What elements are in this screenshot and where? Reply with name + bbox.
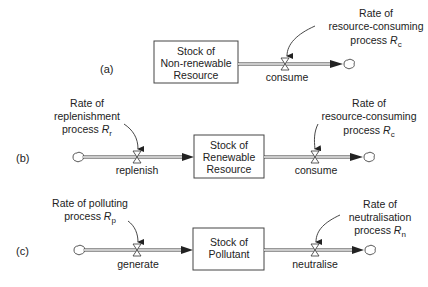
cloud-sink-icon — [365, 245, 375, 255]
panel-label-a: (a) — [100, 63, 113, 75]
panel-label-b: (b) — [16, 152, 29, 164]
svg-text:process Rc: process Rc — [350, 34, 401, 49]
flow-arrowhead — [330, 60, 343, 68]
svg-text:process Rc: process Rc — [343, 124, 394, 139]
panel-b: (b) replenish Rate of replenishment proc… — [16, 97, 417, 178]
svg-text:resource-consuming: resource-consuming — [328, 20, 423, 32]
flow-arrowhead — [181, 246, 193, 254]
rate-label-consuming-b: Rate of resource-consuming process Rc — [321, 97, 416, 139]
influence-arrow — [287, 26, 315, 56]
flow-arrowhead — [352, 246, 364, 254]
svg-text:resource-consuming: resource-consuming — [321, 110, 416, 122]
svg-text:process Rp: process Rp — [64, 210, 116, 225]
svg-text:Renewable: Renewable — [203, 151, 256, 163]
flow-label-neutralise: neutralise — [292, 258, 338, 270]
panel-a: (a) Stock of Non-renewable Resource cons… — [100, 7, 424, 83]
svg-text:Stock of: Stock of — [177, 45, 215, 57]
flow-label-generate: generate — [117, 258, 159, 270]
svg-text:process Rr: process Rr — [62, 123, 112, 138]
influence-arrow — [314, 124, 318, 149]
stock-non-renewable-resource: Stock of Non-renewable Resource — [154, 41, 238, 83]
cloud-source-icon — [73, 152, 83, 162]
rate-label-neutralisation: Rate of neutralisation process Rn — [349, 198, 412, 239]
stock-renewable-resource: Stock of Renewable Resource — [194, 135, 264, 178]
svg-text:Stock of: Stock of — [210, 139, 248, 151]
cloud-sink-icon — [364, 152, 374, 162]
svg-text:Rate of: Rate of — [363, 198, 397, 210]
svg-text:Rate of polluting: Rate of polluting — [52, 197, 128, 209]
svg-text:Resource: Resource — [207, 163, 252, 175]
cloud-sink-icon — [344, 59, 354, 69]
panel-label-c: (c) — [16, 245, 29, 257]
flow-arrowhead — [182, 153, 194, 161]
svg-text:Pollutant: Pollutant — [209, 248, 250, 260]
svg-text:neutralisation: neutralisation — [349, 211, 412, 223]
stock-pollutant: Stock of Pollutant — [193, 228, 264, 270]
influence-arrow — [316, 215, 340, 242]
stock-flow-diagram: (a) Stock of Non-renewable Resource cons… — [0, 0, 428, 287]
svg-text:Resource: Resource — [174, 69, 219, 81]
rate-label-polluting: Rate of polluting process Rp — [52, 197, 128, 225]
flow-arrowhead — [350, 153, 363, 161]
svg-text:process Rn: process Rn — [354, 224, 406, 239]
flow-label-replenish: replenish — [116, 164, 159, 176]
svg-text:Rate of: Rate of — [70, 97, 104, 109]
outflow-pipe-consume-a — [238, 60, 343, 68]
panel-c: (c) generate Rate of polluting process R… — [16, 197, 411, 270]
rate-label-replenishment: Rate of replenishment process Rr — [54, 97, 120, 138]
svg-text:Rate of: Rate of — [352, 97, 386, 109]
rate-label-consuming-a: Rate of resource-consuming process Rc — [328, 7, 423, 49]
influence-arrow — [128, 221, 138, 242]
svg-text:Rate of: Rate of — [359, 7, 393, 19]
flow-label-consume-a: consume — [266, 71, 309, 83]
flow-label-consume-b: consume — [295, 164, 338, 176]
svg-text:Non-renewable: Non-renewable — [160, 57, 231, 69]
svg-text:replenishment: replenishment — [54, 110, 120, 122]
cloud-source-icon — [74, 245, 84, 255]
influence-arrow — [124, 124, 138, 149]
svg-text:Stock of: Stock of — [210, 236, 248, 248]
